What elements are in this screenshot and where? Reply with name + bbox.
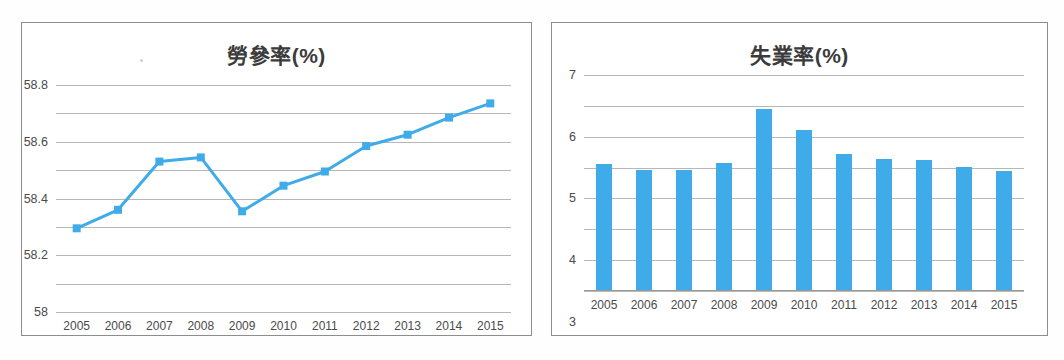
bar[interactable] bbox=[756, 109, 772, 291]
x-axis-tick-label: 2006 bbox=[105, 319, 132, 333]
y-axis-tick-label: 58.4 bbox=[24, 192, 56, 206]
bar[interactable] bbox=[956, 167, 972, 291]
x-axis-tick-label: 2011 bbox=[831, 298, 857, 312]
y-axis-tick-label: 6 bbox=[569, 130, 584, 144]
x-axis-tick-label: 2012 bbox=[871, 298, 898, 312]
chart-page: 勞參率(%) 58.858.658.458.25857.857.657.457.… bbox=[0, 0, 1064, 360]
gridline: 6 bbox=[584, 106, 1024, 107]
x-axis-tick-label: 2008 bbox=[711, 298, 738, 312]
x-axis-tick-label: 2014 bbox=[951, 298, 978, 312]
data-point-marker[interactable] bbox=[321, 168, 329, 176]
data-point-marker[interactable] bbox=[445, 114, 453, 122]
y-axis-tick-label: 4 bbox=[569, 253, 584, 267]
x-axis-tick-label: 2007 bbox=[671, 298, 698, 312]
y-axis-tick-label: 58.2 bbox=[24, 248, 56, 262]
y-axis-tick-label: 58.6 bbox=[24, 135, 56, 149]
x-axis-tick-label: 2005 bbox=[591, 298, 618, 312]
x-axis-tick-label: 2015 bbox=[991, 298, 1018, 312]
data-point-marker[interactable] bbox=[197, 153, 205, 161]
labor-participation-series bbox=[56, 85, 511, 312]
y-axis-tick-label: 3 bbox=[569, 315, 584, 329]
data-point-marker[interactable] bbox=[486, 99, 494, 107]
y-axis-tick-label: 5 bbox=[569, 191, 584, 205]
labor-participation-rate-panel: 勞參率(%) 58.858.658.458.25857.857.657.457.… bbox=[21, 22, 532, 336]
bar[interactable] bbox=[676, 170, 692, 291]
bar[interactable] bbox=[636, 170, 652, 291]
unemployment-rate-panel: 失業率(%) 76543210 200520062007200820092010… bbox=[551, 22, 1048, 336]
gridline: 0 bbox=[584, 291, 1024, 292]
bar[interactable] bbox=[836, 154, 852, 291]
x-axis-tick-label: 2012 bbox=[353, 319, 380, 333]
data-point-marker[interactable] bbox=[114, 206, 122, 214]
x-axis-tick-label: 2015 bbox=[477, 319, 504, 333]
scan-speck bbox=[140, 59, 143, 62]
y-axis-tick-label: 7 bbox=[569, 68, 584, 82]
bar[interactable] bbox=[916, 160, 932, 291]
bar-chart-baseline bbox=[584, 290, 1024, 291]
x-axis-tick-label: 2010 bbox=[270, 319, 297, 333]
data-point-marker[interactable] bbox=[155, 158, 163, 166]
x-axis-tick-label: 2013 bbox=[911, 298, 938, 312]
data-point-marker[interactable] bbox=[362, 142, 370, 150]
gridline: 57.2 bbox=[56, 312, 511, 313]
bar[interactable] bbox=[996, 171, 1012, 291]
y-axis-tick-label: 58.8 bbox=[24, 78, 56, 92]
chart-title-unemployment: 失業率(%) bbox=[552, 39, 1047, 69]
bar[interactable] bbox=[796, 130, 812, 291]
chart-title-labor-participation: 勞參率(%) bbox=[22, 39, 531, 69]
gridline: 7 bbox=[584, 75, 1024, 76]
bar[interactable] bbox=[716, 163, 732, 291]
data-point-marker[interactable] bbox=[280, 182, 288, 190]
x-axis-tick-label: 2009 bbox=[751, 298, 778, 312]
bar[interactable] bbox=[596, 164, 612, 291]
line-path bbox=[77, 103, 491, 228]
data-point-marker[interactable] bbox=[238, 207, 246, 215]
x-axis-tick-label: 2005 bbox=[63, 319, 90, 333]
x-axis-tick-label: 2008 bbox=[187, 319, 214, 333]
bar-chart-plot-area: 76543210 2005200620072008200920102011201… bbox=[584, 75, 1024, 291]
x-axis-tick-label: 2007 bbox=[146, 319, 173, 333]
bar[interactable] bbox=[876, 159, 892, 291]
line-chart-plot-area: 58.858.658.458.25857.857.657.457.2 20052… bbox=[56, 85, 511, 312]
x-axis-tick-label: 2010 bbox=[791, 298, 818, 312]
x-axis-tick-label: 2014 bbox=[436, 319, 463, 333]
data-point-marker[interactable] bbox=[73, 224, 81, 232]
y-axis-tick-label: 58 bbox=[34, 305, 56, 319]
x-axis-tick-label: 2011 bbox=[312, 319, 338, 333]
x-axis-tick-label: 2006 bbox=[631, 298, 658, 312]
x-axis-tick-label: 2013 bbox=[394, 319, 421, 333]
data-point-marker[interactable] bbox=[404, 131, 412, 139]
x-axis-tick-label: 2009 bbox=[229, 319, 256, 333]
